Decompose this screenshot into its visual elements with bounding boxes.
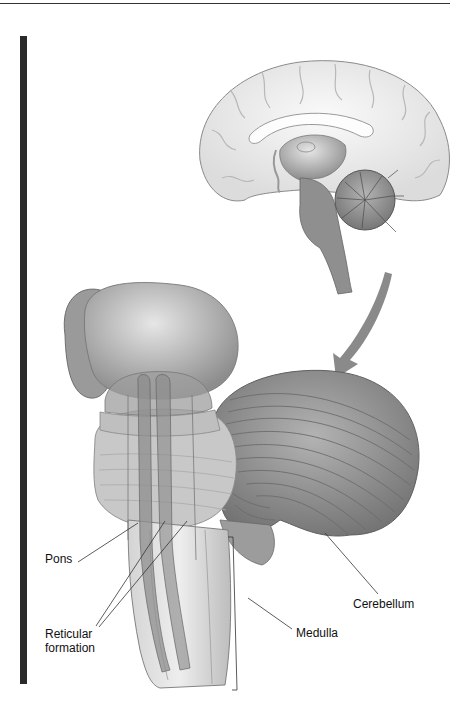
sagittal-brain: [200, 61, 450, 294]
label-reticular-formation-line2: formation: [45, 641, 95, 655]
label-medulla: Medulla: [296, 626, 338, 640]
label-pons: Pons: [45, 552, 72, 566]
brain-illustration: [0, 0, 463, 723]
label-cerebellum: Cerebellum: [353, 597, 414, 611]
enlarged-brainstem: [64, 283, 419, 688]
label-reticular-formation-line1: Reticular: [45, 627, 92, 641]
